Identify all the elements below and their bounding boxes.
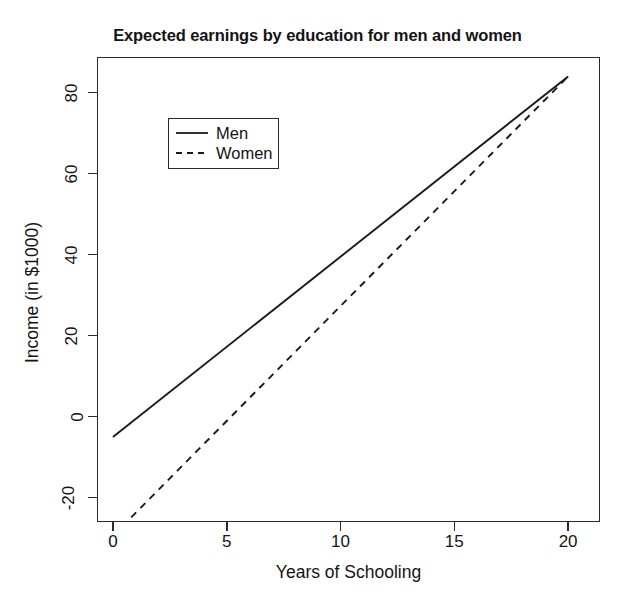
legend-line-solid-icon [175,127,209,139]
y-tick-mark [88,335,97,337]
x-tick-mark [340,522,342,531]
x-tick-label: 5 [197,532,257,552]
chart-figure: Expected earnings by education for men a… [0,0,635,615]
legend-item-men: Men [175,123,248,143]
y-tick-mark [88,173,97,175]
x-tick-mark [454,522,456,531]
y-tick-mark [88,416,97,418]
x-tick-label: 15 [424,532,484,552]
y-tick-mark [88,92,97,94]
legend-item-women: Women [175,143,273,163]
legend-label-women: Women [216,145,273,161]
y-tick-mark [88,497,97,499]
legend-line-dashed-icon [175,147,209,159]
y-axis-title: Income (in $1000) [22,60,43,525]
y-tick-mark [88,254,97,256]
x-axis-title: Years of Schooling [97,562,600,583]
chart-legend: Men Women [168,118,279,169]
x-tick-label: 10 [311,532,371,552]
x-tick-mark [112,522,114,531]
x-tick-mark [226,522,228,531]
legend-label-men: Men [216,125,248,141]
x-tick-mark [567,522,569,531]
x-tick-label: 0 [83,532,143,552]
x-tick-label: 20 [538,532,598,552]
chart-title: Expected earnings by education for men a… [0,26,635,45]
